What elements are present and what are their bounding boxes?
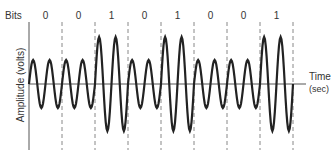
bit-label: 1 xyxy=(175,10,181,21)
ask-waveform-diagram: Bits 00101001 Amplitude (volts) Time (se… xyxy=(0,0,336,159)
bit-label: 1 xyxy=(274,10,280,21)
bit-label: 0 xyxy=(241,10,247,21)
bits-label: Bits xyxy=(5,10,22,21)
x-axis-label-time: Time xyxy=(309,71,331,82)
y-axis-label: Amplitude (volts) xyxy=(15,48,26,122)
bit-labels: 00101001 xyxy=(43,10,280,21)
bit-label: 0 xyxy=(43,10,49,21)
bit-label: 0 xyxy=(142,10,148,21)
bit-label: 1 xyxy=(109,10,115,21)
bit-label: 0 xyxy=(76,10,82,21)
bit-label: 0 xyxy=(208,10,214,21)
x-axis-label-unit: (sec) xyxy=(309,84,329,94)
